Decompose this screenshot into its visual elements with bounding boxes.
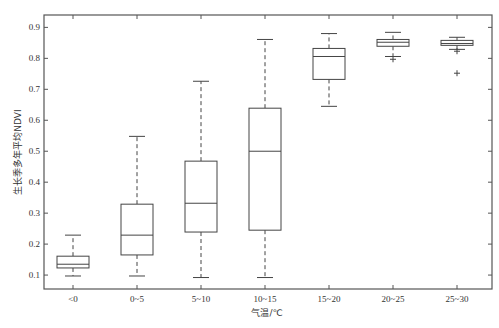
y-tick-label: 0.6 (29, 115, 41, 125)
x-tick-label: <0 (68, 294, 78, 304)
y-tick-label: 0.1 (29, 270, 40, 280)
box-25~30 (441, 37, 473, 76)
box-0~5 (121, 136, 153, 276)
outlier-marker (454, 70, 460, 76)
iqr-box (185, 161, 217, 232)
box-5~10 (185, 81, 217, 277)
iqr-box (377, 39, 409, 46)
x-tick-label: 15~20 (318, 294, 341, 304)
y-tick-label: 0.3 (29, 208, 41, 218)
y-tick-label: 0.7 (29, 84, 41, 94)
x-tick-label: 0~5 (130, 294, 144, 304)
y-tick-label: 0.2 (29, 239, 40, 249)
iqr-box (249, 108, 281, 230)
y-tick-label: 0.4 (29, 177, 41, 187)
x-tick-label: 20~25 (382, 294, 405, 304)
y-tick-label: 0.5 (29, 146, 41, 156)
box-15~20 (313, 34, 345, 107)
box-<0 (57, 235, 89, 276)
iqr-box (313, 48, 345, 79)
outlier-marker (390, 56, 396, 62)
boxes (57, 32, 473, 277)
y-tick-label: 0.9 (29, 22, 41, 32)
iqr-box (121, 204, 153, 255)
box-20~25 (377, 32, 409, 62)
y-tick-label: 0.8 (29, 53, 41, 63)
x-tick-label: 5~10 (192, 294, 211, 304)
x-tick-label: 25~30 (446, 294, 469, 304)
x-tick-label: 10~15 (254, 294, 277, 304)
box-10~15 (249, 39, 281, 277)
y-axis-title: 生长季多年平均NDVI (12, 109, 23, 194)
iqr-box (441, 40, 473, 45)
x-axis-title: 气温/℃ (251, 307, 282, 318)
boxplot-chart: 0.10.20.30.40.50.60.70.80.9 <00~55~1010~… (0, 0, 499, 328)
iqr-box (57, 256, 89, 268)
